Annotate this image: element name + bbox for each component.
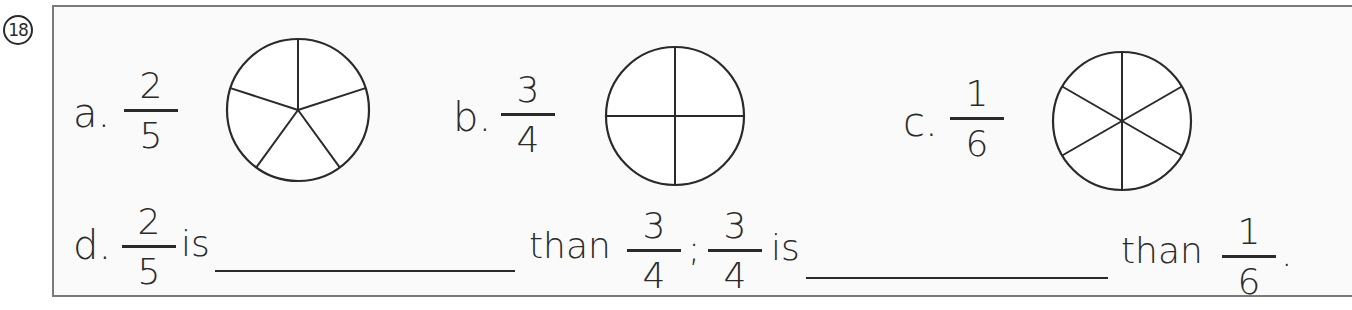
numerator: 3 — [643, 206, 666, 246]
period: . — [1281, 236, 1292, 272]
than-text-1: than — [529, 228, 611, 264]
pie-fifths-icon[interactable] — [226, 38, 370, 182]
denominator: 4 — [643, 256, 666, 296]
fraction-bar — [501, 113, 555, 116]
item-b-fraction: 3 4 — [501, 70, 555, 160]
answer-blank-1[interactable] — [215, 270, 515, 272]
semicolon: ; — [688, 231, 700, 267]
fraction-bar — [627, 249, 681, 252]
item-a-label: a. — [73, 93, 110, 133]
fraction-bar — [1222, 255, 1276, 258]
fraction-bar — [124, 109, 178, 112]
pie-quarters-icon[interactable] — [605, 46, 745, 186]
answer-blank-2[interactable] — [806, 277, 1108, 279]
numerator: 1 — [1238, 212, 1261, 252]
denominator: 5 — [138, 252, 161, 292]
comparison-fraction-3: 3 4 — [708, 206, 762, 296]
fraction-bar — [708, 249, 762, 252]
than-text-2: than — [1121, 233, 1203, 269]
denominator: 4 — [724, 256, 747, 296]
is-text-1: is — [181, 226, 210, 262]
comparison-fraction-2: 3 4 — [627, 206, 681, 296]
item-b-label: b. — [453, 97, 491, 137]
fraction-bar — [950, 117, 1004, 120]
item-c-label: c. — [903, 102, 938, 142]
numerator: 1 — [966, 74, 989, 114]
denominator: 4 — [517, 120, 540, 160]
fraction-bar — [122, 245, 176, 248]
item-c-fraction: 1 6 — [950, 74, 1004, 164]
numerator: 2 — [140, 66, 163, 106]
denominator: 6 — [1238, 262, 1261, 302]
denominator: 6 — [966, 124, 989, 164]
denominator: 5 — [140, 116, 163, 156]
comparison-fraction-4: 1 6 — [1222, 212, 1276, 302]
item-d-label: d. — [73, 225, 111, 265]
numerator: 3 — [724, 206, 747, 246]
item-a-fraction: 2 5 — [124, 66, 178, 156]
pie-sixths-icon[interactable] — [1052, 51, 1192, 191]
numerator: 2 — [138, 202, 161, 242]
comparison-fraction-1: 2 5 — [122, 202, 176, 292]
numerator: 3 — [517, 70, 540, 110]
question-number: 18 — [3, 15, 33, 45]
is-text-2: is — [771, 230, 800, 266]
